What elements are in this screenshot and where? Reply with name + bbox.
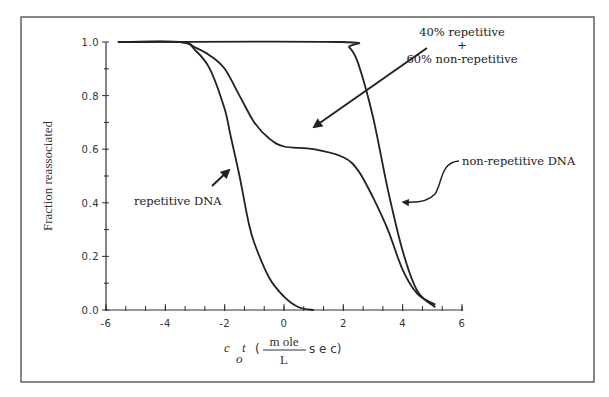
y-tick-label: 0.8 [82, 91, 99, 102]
curve-40-repetitive-60-non-repetitive [118, 42, 435, 305]
x-tick-label: -2 [219, 318, 230, 329]
y-tick-label: 0.2 [82, 251, 99, 262]
annotation-nonrepetitive: non-repetitive DNA [462, 154, 576, 168]
x-tick-label: 0 [281, 318, 288, 329]
x-label-t: t [242, 340, 246, 355]
annotation-mix-plus: + [457, 38, 467, 52]
curves [118, 41, 435, 310]
arrow-to-repetitive-curve [212, 170, 229, 186]
x-tick-label: 4 [399, 318, 406, 329]
curve-non-repetitive-dna [118, 42, 435, 308]
annotation-repetitive: repetitive DNA [134, 194, 222, 208]
x-label-c: c [224, 340, 230, 355]
x-label-open-paren: ( [255, 342, 260, 356]
annotation-mix-line3: 60% non-repetitive [406, 52, 517, 66]
y-tick-label: 0.4 [82, 198, 99, 209]
y-tick-label: 0.0 [82, 305, 99, 316]
x-label-numerator: m ole [269, 334, 298, 349]
y-ticks: 0.00.20.40.60.81.0 [82, 37, 109, 316]
x-tick-label: -4 [160, 318, 171, 329]
annotation-mix-line1: 40% repetitive [419, 25, 505, 39]
curly-arrow-to-nonrepetitive [403, 161, 459, 202]
curve-repetitive-dna [118, 41, 314, 310]
y-axis-label: Fraction reassociated [40, 120, 55, 231]
y-tick-label: 1.0 [82, 37, 99, 48]
x-axis-label: c o t ( m ole L s e c) [224, 334, 342, 367]
x-label-sec: s e c) [309, 342, 342, 356]
x-tick-label: -6 [101, 318, 112, 329]
y-tick-label: 0.6 [82, 144, 99, 155]
reassociation-chart: 0.00.20.40.60.81.0 -6-4-20246 Fraction r… [0, 0, 609, 397]
x-label-denominator: L [280, 352, 288, 367]
x-tick-label: 6 [459, 318, 466, 329]
x-tick-label: 2 [340, 318, 347, 329]
arrow-to-mixture-curve [314, 48, 427, 127]
x-ticks: -6-4-20246 [101, 304, 466, 329]
